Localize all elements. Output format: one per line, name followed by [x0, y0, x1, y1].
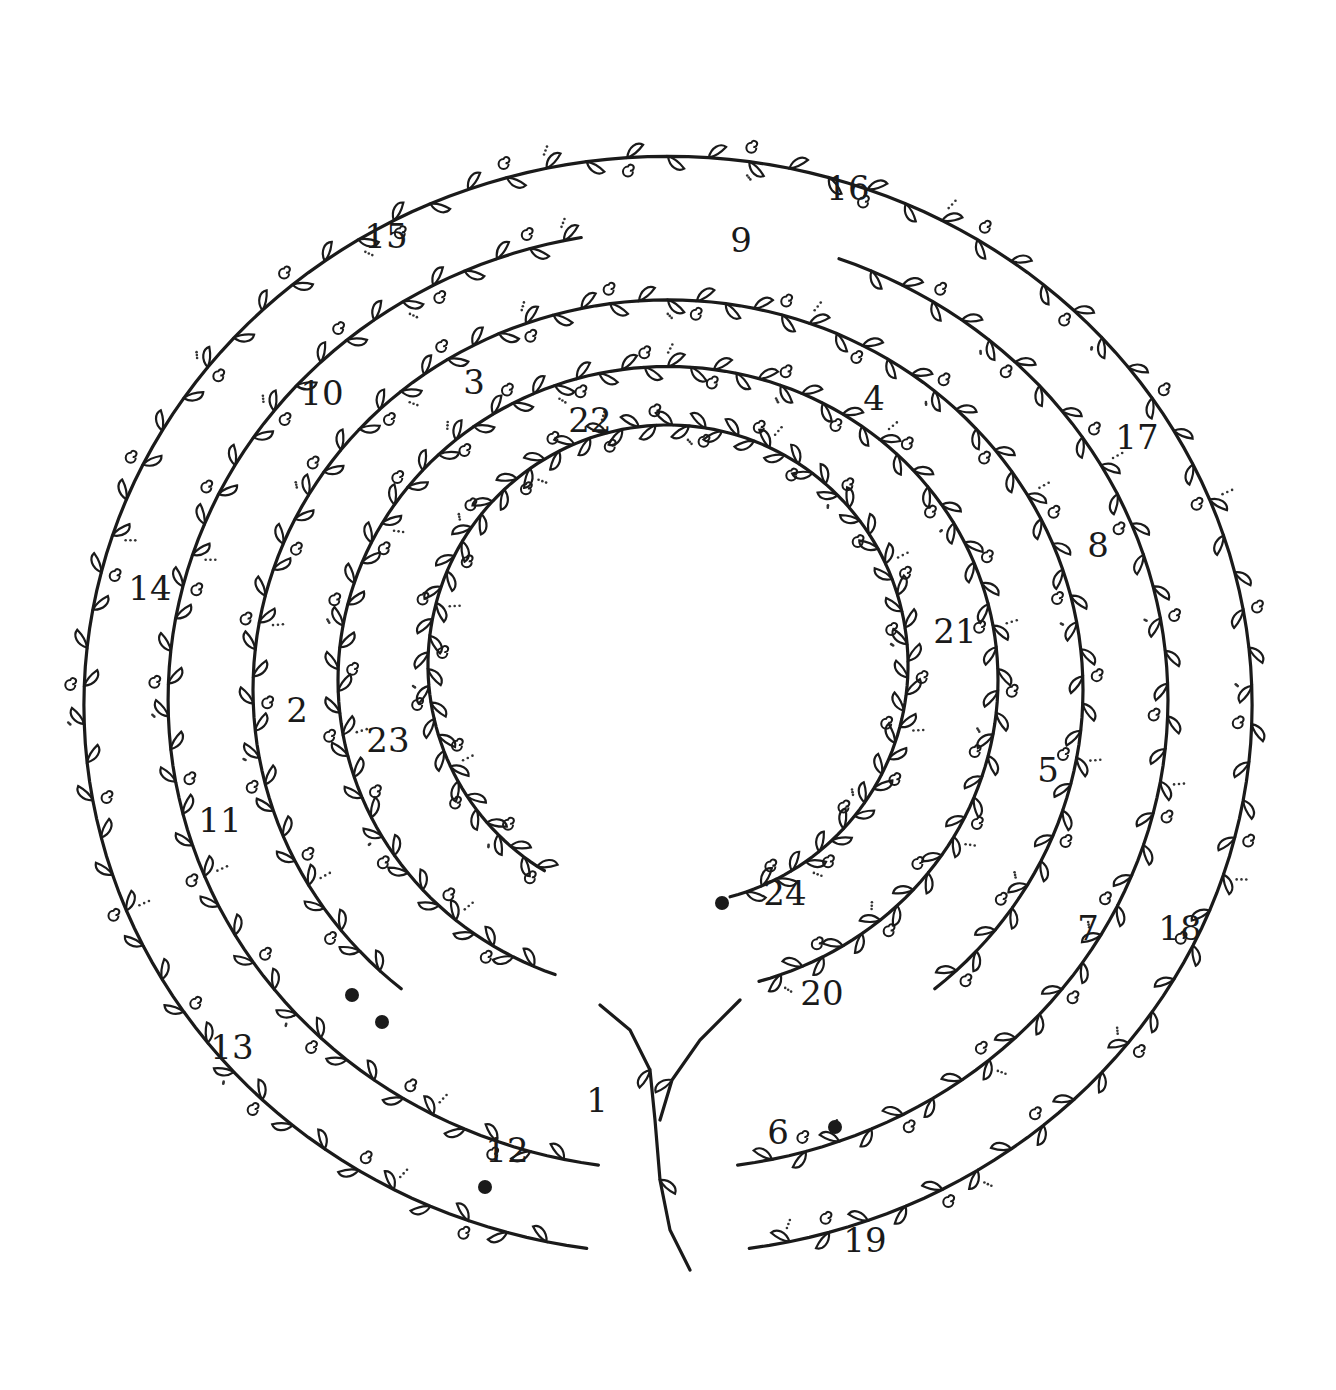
curl-icon — [126, 451, 137, 463]
curl-icon — [902, 437, 913, 449]
leaf-icon — [421, 1094, 440, 1115]
leaf-icon — [381, 1169, 400, 1190]
leaf-icon — [364, 522, 373, 542]
vine-center-stem-right — [660, 1000, 740, 1120]
leaf-icon — [584, 161, 606, 175]
dot-number-20: 20 — [800, 976, 843, 1010]
curl-icon — [459, 444, 470, 456]
curl-icon — [1114, 522, 1125, 534]
leaf-icon — [1148, 616, 1161, 637]
curl-icon — [324, 730, 335, 742]
dot-number-7: 7 — [1077, 911, 1099, 945]
vine-paths — [84, 156, 1252, 1270]
dot-number-8: 8 — [1087, 528, 1109, 562]
leaf-icon — [941, 1072, 962, 1083]
curl-icon — [262, 696, 273, 708]
leaf-icon — [387, 864, 408, 880]
curl-icon — [980, 221, 991, 233]
leaf-icon — [642, 367, 664, 382]
leaf-icon — [254, 576, 265, 597]
leaf-icon — [368, 299, 385, 320]
leaf-icon — [1033, 830, 1053, 849]
leaf-icon — [183, 794, 195, 815]
leaf-icon — [922, 1182, 942, 1190]
leaf-icon — [1068, 673, 1083, 695]
curl-icon — [1252, 600, 1263, 612]
leaf-icon — [1040, 861, 1049, 881]
leaf-icon — [417, 353, 434, 374]
leaf-icon — [941, 498, 962, 515]
leaf-icon — [990, 1141, 1011, 1152]
curl-icon — [691, 308, 702, 320]
leaf-icon — [1083, 701, 1098, 723]
leaf-icon — [537, 859, 558, 869]
leaf-icon — [506, 177, 527, 189]
leaf-icon — [980, 1060, 996, 1081]
leaf-icon — [427, 265, 446, 286]
leaf-icon — [905, 608, 918, 629]
curl-icon — [979, 452, 990, 464]
leaf-icon — [343, 715, 356, 736]
leaf-icon — [118, 479, 126, 499]
curl-icon — [996, 893, 1007, 905]
leaf-icon — [445, 1129, 465, 1138]
dot-number-13: 13 — [210, 1030, 253, 1064]
leaf-icon — [331, 606, 343, 627]
leaf-icon — [974, 923, 996, 939]
dot-24-icon — [715, 896, 729, 910]
curl-icon — [191, 583, 202, 595]
leaf-icon — [338, 1168, 359, 1178]
dot-left-2-icon — [375, 1015, 389, 1029]
leaf-icon — [547, 451, 565, 472]
leaf-icon — [345, 563, 355, 584]
curl-icon — [65, 678, 76, 690]
dot-number-22: 22 — [568, 403, 611, 437]
leaf-icon — [620, 413, 641, 427]
dot-12-icon — [478, 1180, 492, 1194]
curl-icon — [1233, 716, 1244, 728]
leaf-icon — [227, 444, 238, 465]
leaf-icon — [951, 837, 962, 858]
leaf-icon — [552, 315, 573, 327]
curl-icon — [405, 1079, 416, 1091]
leaf-icon — [265, 765, 277, 786]
curl-icon — [186, 874, 197, 886]
leaf-icon — [843, 406, 864, 416]
curl-icon — [904, 1120, 915, 1132]
curl-icon — [499, 157, 510, 169]
dot-number-10: 10 — [300, 376, 343, 410]
leaf-icon — [123, 933, 144, 952]
leaf-icon — [90, 552, 101, 573]
leaf-icon — [851, 933, 868, 954]
leaf-icon — [866, 513, 877, 534]
leaf-icon — [1116, 906, 1125, 926]
leaf-icon — [361, 825, 382, 843]
dot-number-2: 2 — [286, 693, 308, 727]
dot-number-5: 5 — [1037, 753, 1059, 787]
curl-icon — [279, 267, 290, 279]
leaf-icon — [255, 712, 269, 734]
leaf-icon — [788, 443, 806, 464]
dot-number-21: 21 — [933, 614, 976, 648]
leaf-icon — [482, 925, 500, 946]
leaf-icon — [764, 454, 784, 463]
leaf-icon — [154, 410, 165, 431]
leaf-icon — [1128, 360, 1149, 376]
curl-icon — [436, 340, 447, 352]
leaf-icon — [275, 848, 296, 867]
leaf-icon — [753, 296, 774, 308]
leaf-icon — [499, 333, 519, 342]
leaf-icon — [1185, 464, 1194, 484]
leaf-icon — [782, 958, 802, 967]
leaf-icon — [301, 474, 312, 495]
curl-icon — [1059, 314, 1070, 326]
curl-icon — [1162, 811, 1173, 823]
leaf-icon — [903, 278, 923, 287]
leaf-icon — [1062, 404, 1083, 420]
leaf-icon — [1064, 620, 1077, 641]
dot-number-12: 12 — [485, 1133, 528, 1167]
curl-icon — [306, 1041, 317, 1053]
leaf-icon — [694, 287, 716, 301]
leaf-icon — [354, 757, 364, 778]
curl-icon — [1243, 835, 1254, 847]
